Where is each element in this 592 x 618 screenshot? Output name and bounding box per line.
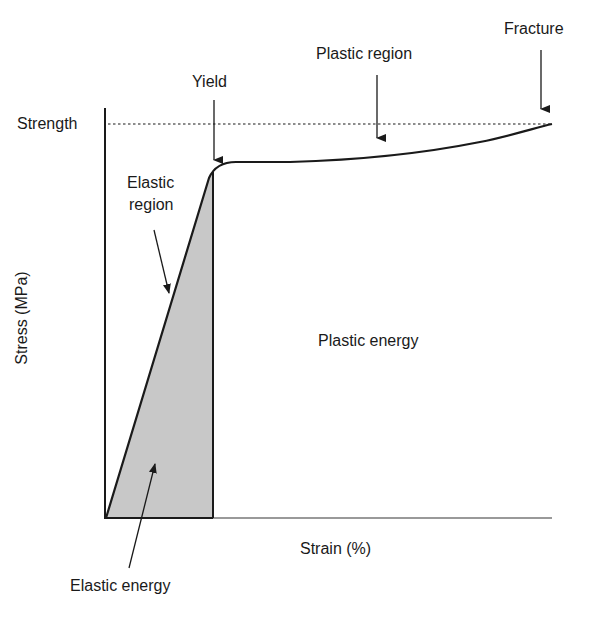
x-axis-label: Strain (%)	[300, 541, 371, 557]
elastic-energy-label: Elastic energy	[70, 578, 171, 594]
plastic-energy-label: Plastic energy	[318, 333, 419, 349]
yield-label: Yield	[192, 74, 227, 90]
stress-strain-diagram	[0, 0, 592, 618]
elastic-region-label-line1: Elastic	[127, 175, 174, 191]
plastic-region-label: Plastic region	[316, 46, 412, 62]
fracture-label: Fracture	[504, 21, 564, 37]
elastic-region-label-line2: region	[129, 197, 173, 213]
y-axis-label: Stress (MPa)	[14, 271, 30, 364]
strength-label: Strength	[17, 116, 77, 132]
elastic-region-arrow	[154, 230, 169, 293]
